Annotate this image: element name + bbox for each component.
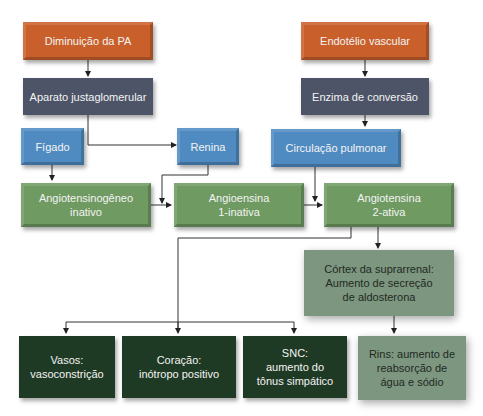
node-label: água e sódio: [369, 375, 455, 389]
node-vasos: Vasos:vasoconstrição: [19, 336, 115, 398]
node-label: 2-ativa: [357, 205, 421, 219]
node-label: Endotélio vascular: [320, 34, 410, 48]
node-label: Córtex da suprarrenal:: [324, 262, 433, 276]
node-label: aumento do: [257, 360, 333, 374]
node-label: Angiotensina: [357, 191, 421, 205]
node-label: Diminuição da PA: [45, 34, 132, 48]
node-label: Aparato justaglomerular: [30, 90, 147, 104]
node-angiotensina-2: Angiotensina2-ativa: [324, 183, 454, 227]
node-snc: SNC:aumento dotônus simpático: [243, 336, 347, 398]
node-label: Coração:: [139, 353, 219, 367]
node-label: Rins: aumento de: [369, 347, 455, 361]
node-figado: Fígado: [21, 128, 84, 165]
node-label: Enzima de conversão: [312, 90, 418, 104]
node-angiotensinogeneo: Angiotensinogêneoinativo: [21, 183, 151, 227]
node-label: Vasos:: [30, 353, 103, 367]
arrow-to-snc: [178, 322, 294, 333]
node-angiotensina-1: Angioensina1-inativa: [174, 183, 304, 227]
node-label: Fígado: [35, 140, 69, 154]
node-coracao: Coração:inótropo positivo: [122, 336, 236, 398]
node-label: vasoconstrição: [30, 367, 103, 381]
node-label: Aumento de secreção: [324, 276, 433, 290]
node-diminuicao-pa: Diminuição da PA: [23, 22, 153, 60]
node-rins: Rins: aumento dereabsorção deágua e sódi…: [358, 336, 466, 400]
node-label: Renina: [191, 140, 226, 154]
node-endotelio-vascular: Endotélio vascular: [301, 22, 429, 60]
arrow-to-vasos: [66, 322, 178, 333]
node-cortex-suprarrenal: Córtex da suprarrenal:Aumento de secreçã…: [304, 250, 454, 316]
node-label: inativo: [39, 205, 133, 219]
node-label: tônus simpático: [257, 374, 333, 388]
node-label: reabsorção de: [369, 361, 455, 375]
node-label: de aldosterona: [324, 290, 433, 304]
arrow-aparato-to-renina: [88, 115, 176, 145]
node-label: 1-inativa: [209, 205, 270, 219]
node-label: SNC:: [257, 346, 333, 360]
node-enzima-conversao: Enzima de conversão: [301, 78, 429, 115]
node-label: Angioensina: [209, 191, 270, 205]
node-aparato-justaglomerular: Aparato justaglomerular: [23, 78, 153, 115]
node-renina: Renina: [177, 128, 239, 165]
node-label: Circulação pulmonar: [286, 141, 387, 155]
node-label: inótropo positivo: [139, 367, 219, 381]
node-circulacao-pulmonar: Circulação pulmonar: [271, 129, 401, 167]
node-label: Angiotensinogêneo: [39, 191, 133, 205]
